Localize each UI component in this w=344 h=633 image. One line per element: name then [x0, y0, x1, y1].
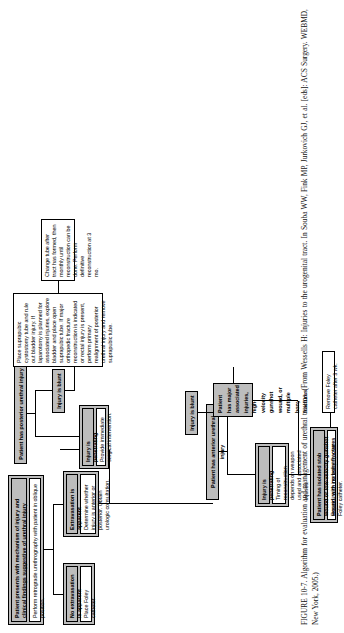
connector-root-down	[44, 549, 53, 550]
connector-post-penetrating	[35, 436, 79, 437]
node-extravasation-header: Extravasation is apparent	[66, 474, 78, 534]
connector-extrav-down	[99, 503, 109, 504]
node-remove-foley: Remove Foley catheter after 3 wk.	[322, 351, 335, 413]
connector-to-anterior	[109, 503, 213, 504]
connector-to-no-extrav	[53, 594, 63, 595]
connector-anterior-penetrating	[227, 474, 255, 475]
node-anterior-penetrating-header: Injury is penetrating	[258, 446, 270, 504]
node-suprapubic-management: Place suprapubic cystostomy tube and rul…	[13, 293, 103, 367]
node-anterior-blunt: Injury is blunt	[185, 391, 198, 435]
connector-root-split	[53, 505, 54, 595]
connector-post-blunt-down	[65, 390, 74, 391]
connector-posterior-split	[35, 391, 36, 437]
connector-suprapubic-to-change	[58, 281, 59, 293]
connector-post-blunt	[35, 390, 52, 391]
figure-label: FIGURE 10-7.	[300, 581, 309, 625]
node-posterior-blunt: Injury is blunt	[52, 369, 65, 413]
connector-posterior-down	[27, 413, 35, 414]
node-no-extravasation-header: No extravasation is apparent	[66, 566, 78, 622]
node-posterior-penetrating-header: Injury is penetrating	[82, 408, 94, 466]
node-root: Patient presents with mechanism of injur…	[8, 475, 44, 625]
connector-major-to-suprapubic	[233, 367, 234, 383]
node-posterior-urethral-injury: Patient has posterior urethral injury	[14, 364, 27, 464]
node-extravasation: Extravasation is apparent Determine whet…	[63, 471, 99, 537]
figure-caption-main: Algorithm for evaluation and management …	[300, 393, 309, 579]
rotated-page: Patient presents with mechanism of injur…	[0, 0, 344, 633]
node-root-header: Patient presents with mechanism of injur…	[11, 478, 27, 622]
node-anterior-penetrating: Injury is penetrating Timing of reconstr…	[255, 443, 289, 507]
figure-caption: FIGURE 10-7. Algorithm for evaluation an…	[300, 9, 321, 625]
connector-to-extrav	[53, 504, 63, 505]
node-major-associated-injuries: Patient has major associated injuries, h…	[213, 383, 253, 417]
flowchart-canvas: Patient presents with mechanism of injur…	[0, 0, 344, 633]
node-posterior-penetrating: Injury is penetrating Provide immediate …	[79, 405, 109, 469]
connector-stab-to-remove	[330, 413, 331, 427]
connector-anterior-down	[219, 451, 227, 452]
node-extravasation-body: Determine whether injury is anterior or …	[80, 474, 96, 534]
node-change-tube: Change tube after tract has formed, then…	[41, 219, 75, 281]
connector-ant-pen-down	[289, 474, 298, 475]
node-root-body: Perform retrograde urethrography with pa…	[29, 478, 41, 622]
node-no-extravasation: No extravasation is apparent Place Foley…	[63, 563, 95, 625]
connector-post-blunt-to-suprapubic	[74, 367, 75, 391]
node-anterior-urethral-injury: Patient has anterior urethral injury	[206, 404, 219, 500]
connector-anterior-split	[227, 413, 228, 475]
